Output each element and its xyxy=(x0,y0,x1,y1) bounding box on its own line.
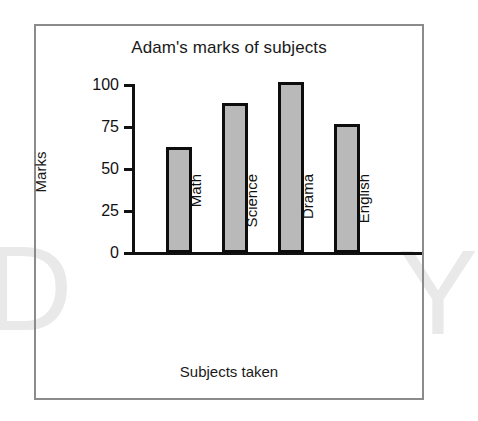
x-axis-category-label: English xyxy=(355,174,373,264)
chart-frame: Adam's marks of subjects Marks 025507510… xyxy=(34,24,424,400)
x-axis-category-label: Science xyxy=(243,174,261,264)
x-axis-category-label: Math xyxy=(187,174,205,264)
x-axis-category-label: Drama xyxy=(299,174,317,264)
x-axis-label: Subjects taken xyxy=(36,363,422,380)
plot-area: Marks 0255075100 MathScienceDramaEnglish… xyxy=(36,26,422,398)
cropped-header-text xyxy=(0,0,463,10)
